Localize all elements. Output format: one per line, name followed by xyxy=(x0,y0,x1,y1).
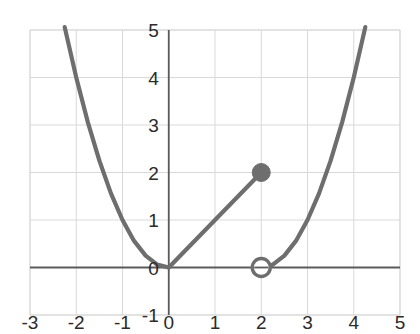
y-tick-label: 4 xyxy=(148,68,159,89)
y-tick-label: -1 xyxy=(142,305,159,326)
chart-background xyxy=(0,0,420,334)
x-tick-label: -2 xyxy=(68,312,85,333)
x-tick-labels: -3-2-1012345 xyxy=(22,312,406,333)
y-tick-label: 3 xyxy=(148,115,159,136)
y-tick-label: 1 xyxy=(148,210,159,231)
y-tick-label: 5 xyxy=(148,20,159,41)
x-tick-label: -3 xyxy=(22,312,39,333)
x-tick-label: 1 xyxy=(210,312,221,333)
marker-closed-point xyxy=(252,164,270,182)
y-tick-label: 2 xyxy=(148,163,159,184)
x-tick-label: 5 xyxy=(395,312,406,333)
x-tick-label: -1 xyxy=(114,312,131,333)
chart-figure: -3-2-1012345 -1012345 xyxy=(0,0,420,334)
x-tick-label: 4 xyxy=(348,312,359,333)
y-tick-label: 0 xyxy=(148,258,159,279)
x-tick-label: 2 xyxy=(256,312,267,333)
x-tick-label: 0 xyxy=(163,312,174,333)
x-tick-label: 3 xyxy=(302,312,313,333)
plot-canvas: -3-2-1012345 -1012345 xyxy=(0,0,420,334)
